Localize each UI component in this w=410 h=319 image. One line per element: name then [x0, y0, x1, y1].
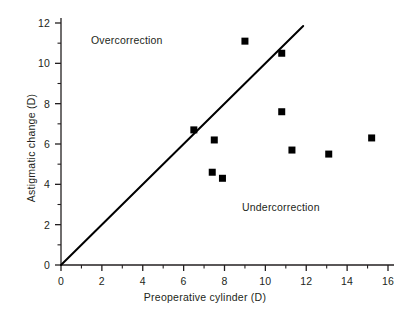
identity-line: [61, 26, 303, 265]
data-point-marker: [241, 38, 248, 45]
y-tick-label: 8: [22, 98, 50, 110]
data-point-marker: [368, 134, 375, 141]
data-point-marker: [209, 169, 216, 176]
y-tick-label: 6: [22, 138, 50, 150]
x-axis-title: Preoperative cylinder (D): [0, 291, 410, 303]
plot-canvas: [0, 0, 410, 319]
x-tick-label: 8: [221, 275, 227, 287]
data-point-marker: [190, 126, 197, 133]
data-point-marker: [211, 136, 218, 143]
x-tick-label: 2: [99, 275, 105, 287]
x-tick-label: 10: [259, 275, 271, 287]
y-tick-label: 2: [22, 219, 50, 231]
y-tick-label: 12: [22, 17, 50, 29]
undercorrection-annotation: Undercorrection: [242, 201, 320, 213]
data-point-marker: [325, 151, 332, 158]
x-tick-label: 0: [58, 275, 64, 287]
x-tick-label: 12: [300, 275, 312, 287]
y-tick-label: 4: [22, 178, 50, 190]
scatter-plot-figure: Overcorrection Undercorrection Preoperat…: [0, 0, 410, 319]
x-tick-label: 16: [382, 275, 394, 287]
x-tick-label: 4: [140, 275, 146, 287]
y-tick-label: 0: [22, 259, 50, 271]
x-tick-label: 6: [181, 275, 187, 287]
data-point-marker: [278, 108, 285, 115]
y-tick-label: 10: [22, 57, 50, 69]
data-point-marker: [278, 50, 285, 57]
data-point-marker: [219, 175, 226, 182]
overcorrection-annotation: Overcorrection: [91, 34, 163, 46]
x-tick-label: 14: [341, 275, 353, 287]
data-point-marker: [288, 147, 295, 154]
